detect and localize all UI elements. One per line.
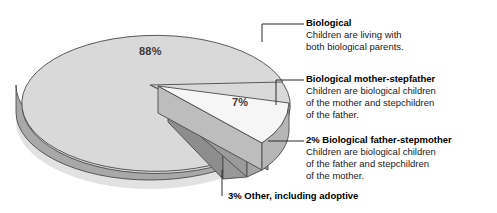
callout-biological: Biological Children are living with both… [306,17,496,53]
callout-biological-line1: Children are living with [306,29,496,41]
callout-mother-stepfather-line2: of the mother and stepchildren [306,97,496,109]
callout-father-stepmother-line3: of the mother. [306,170,496,182]
callout-mother-stepfather-line3: of the father. [306,109,496,121]
callout-other: 3% Other, including adoptive [228,190,458,202]
callout-father-stepmother-line1: Children are biological children [306,146,496,158]
callout-mother-stepfather: Biological mother-stepfather Children ar… [306,73,496,122]
callout-biological-body: Children are living with both biological… [306,29,496,53]
callout-other-title: 3% Other, including adoptive [228,190,458,202]
pie-chart-figure: 88% 7% Biological Children are living wi… [0,0,497,213]
slice-value-biological: 88% [139,45,162,57]
leader-line-biological [262,24,304,42]
callout-mother-stepfather-body: Children are biological children of the … [306,85,496,122]
callout-biological-title: Biological [306,17,496,29]
callout-mother-stepfather-title: Biological mother-stepfather [306,73,496,85]
callout-biological-line2: both biological parents. [306,41,496,53]
callout-father-stepmother-body: Children are biological children of the … [306,146,496,183]
slice-value-mother-stepfather: 7% [232,96,248,108]
callout-mother-stepfather-line1: Children are biological children [306,85,496,97]
callout-father-stepmother: 2% Biological father-stepmother Children… [306,134,496,183]
callout-father-stepmother-title: 2% Biological father-stepmother [306,134,496,146]
callout-father-stepmother-line2: of the father and stepchildren [306,158,496,170]
